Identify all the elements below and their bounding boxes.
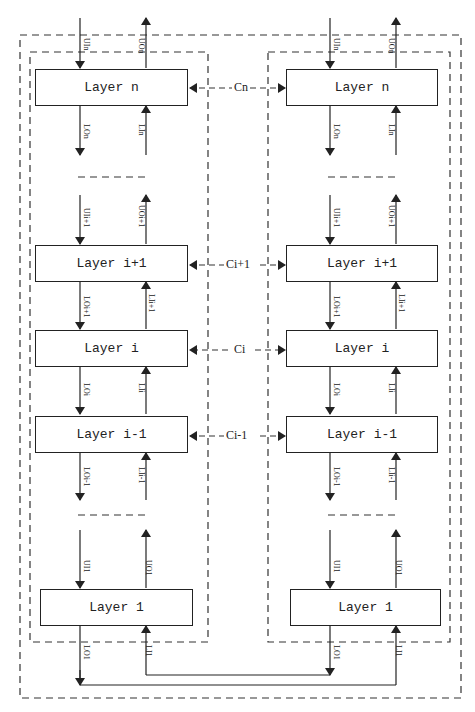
left-layer-1: Layer 1 [40, 589, 193, 626]
signal-ui-n: UIn [82, 38, 91, 50]
layer-label: Layer i [84, 341, 139, 356]
signal-uo-i1: UOi+1 [137, 205, 146, 227]
signal-lo-n-right: LOn [332, 124, 341, 139]
signal-lo-i: LOi [82, 383, 91, 396]
signal-li-i-right: LIi [387, 383, 396, 393]
signal-uo-1: UO1 [144, 560, 153, 576]
layer-label: Layer 1 [338, 600, 393, 615]
signal-ui-i1-right: UIi+1 [332, 208, 341, 227]
signal-li-1: LI1 [144, 645, 153, 657]
signal-li-i-1-right: LIi-1 [387, 467, 396, 483]
right-layer-i-plus-1: Layer i+1 [286, 245, 438, 282]
signal-ui-1: UI1 [82, 560, 91, 572]
signal-li-i: LIi [137, 383, 146, 393]
signal-li-i1-right: LIi+1 [397, 294, 406, 312]
signal-lo-i-right: LOi [332, 383, 341, 396]
layer-label: Layer i+1 [76, 256, 146, 271]
layer-label: Layer i+1 [327, 256, 397, 271]
signal-uo-i1-right: UOi+1 [387, 205, 396, 227]
signal-li-i1: LIi+1 [147, 294, 156, 312]
signal-lo-n: LOn [82, 124, 91, 139]
signal-li-n-right: LIn [387, 124, 396, 136]
signal-li-1-right: LI1 [394, 645, 403, 657]
right-layer-i-minus-1: Layer i-1 [286, 416, 438, 453]
signal-lo-i-1: LOi-1 [82, 467, 91, 487]
coupling-label-i: Ci [232, 342, 247, 357]
signal-ui-n-right: UIn [332, 38, 341, 50]
right-layer-1: Layer 1 [290, 589, 441, 626]
signal-li-n: LIn [137, 124, 146, 136]
layer-label: Layer i [335, 341, 390, 356]
signal-ui-i1: UIi+1 [82, 208, 91, 227]
right-layer-n: Layer n [286, 69, 438, 106]
left-layer-n: Layer n [35, 69, 188, 106]
signal-uo-1-right: UO1 [394, 560, 403, 576]
right-layer-i: Layer i [286, 330, 438, 367]
layer-label: Layer 1 [89, 600, 144, 615]
coupling-label-i-plus-1: Ci+1 [224, 257, 252, 272]
coupling-label-i-minus-1: Ci-1 [224, 428, 249, 443]
signal-ui-1-right: UI1 [332, 560, 341, 572]
layer-label: Layer n [335, 80, 390, 95]
signal-li-i-1: LIi-1 [137, 467, 146, 483]
layer-label: Layer i-1 [76, 427, 146, 442]
layer-label: Layer n [84, 80, 139, 95]
signal-lo-1: LO1 [82, 645, 91, 660]
signal-lo-1-right: LO1 [332, 645, 341, 660]
signal-lo-i1-right: LOi+1 [332, 296, 341, 317]
signal-lo-i-1-right: LOi-1 [332, 467, 341, 487]
signal-uo-n: UOn [137, 38, 146, 54]
left-layer-i-minus-1: Layer i-1 [35, 416, 188, 453]
layer-label: Layer i-1 [327, 427, 397, 442]
coupling-label-n: Cn [232, 80, 250, 95]
signal-lo-i1: LOi+1 [82, 296, 91, 317]
left-layer-i: Layer i [35, 330, 188, 367]
signal-uo-n-right: UOn [387, 38, 396, 54]
left-layer-i-plus-1: Layer i+1 [35, 245, 188, 282]
